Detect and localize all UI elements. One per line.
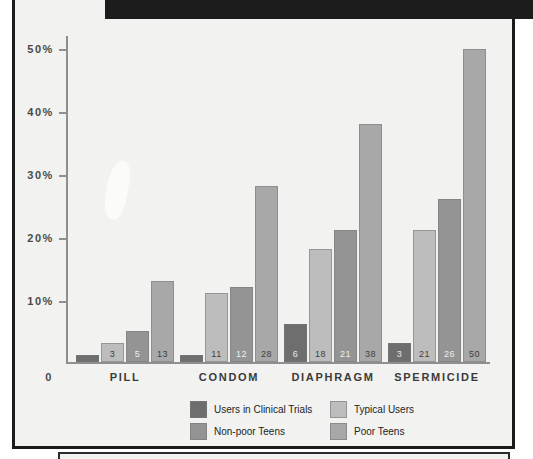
bar: 5 xyxy=(126,331,149,362)
bar-value-label: 21 xyxy=(335,349,356,359)
y-axis-label: 40% xyxy=(27,106,54,118)
masthead-band xyxy=(105,0,533,19)
y-axis-label: 20% xyxy=(27,232,54,244)
bar-value-label: 18 xyxy=(310,349,331,359)
scanned-page: 50%40%30%20%10%0 3513PILL111228CONDOM618… xyxy=(0,0,533,459)
category-label: PILL xyxy=(76,371,174,383)
legend-swatch xyxy=(190,401,207,418)
y-tick-mark xyxy=(59,49,67,51)
y-tick-mark xyxy=(59,112,67,114)
plot-area: 50%40%30%20%10%0 3513PILL111228CONDOM618… xyxy=(66,36,490,364)
bar-value-label: 28 xyxy=(256,349,277,359)
legend-label: Typical Users xyxy=(354,404,414,415)
bar-value-label: 50 xyxy=(464,349,485,359)
bar: 26 xyxy=(438,199,461,362)
bar-value-label: 3 xyxy=(389,349,410,359)
legend-swatch xyxy=(330,423,347,440)
legend-item: Typical Users xyxy=(330,401,490,418)
bar: 18 xyxy=(309,249,332,362)
y-tick-mark xyxy=(59,175,67,177)
bar-value-label: 13 xyxy=(152,349,173,359)
y-axis-label: 10% xyxy=(27,295,54,307)
bar-value-label: 6 xyxy=(285,349,306,359)
bar-value-label: 26 xyxy=(439,349,460,359)
bar-groups: 3513PILL111228CONDOM6182138DIAPHRAGM3212… xyxy=(68,36,490,362)
bar-value-label: 12 xyxy=(231,349,252,359)
legend-item: Poor Teens xyxy=(330,423,490,440)
bar: 28 xyxy=(255,186,278,362)
bar: 13 xyxy=(151,281,174,363)
legend-item: Users in Clinical Trials xyxy=(190,401,330,418)
legend-swatch xyxy=(190,423,207,440)
legend-label: Poor Teens xyxy=(354,426,404,437)
bar-value-label: 3 xyxy=(102,349,123,359)
legend-label: Non-poor Teens xyxy=(214,426,285,437)
bar xyxy=(76,355,99,362)
bar-value-label: 38 xyxy=(360,349,381,359)
y-tick-mark xyxy=(59,301,67,303)
y-axis-label: 50% xyxy=(27,43,54,55)
next-content-box xyxy=(58,452,510,459)
bar-group: 3513PILL xyxy=(76,36,174,362)
legend-item: Non-poor Teens xyxy=(190,423,330,440)
bar: 21 xyxy=(334,230,357,362)
bar: 21 xyxy=(413,230,436,362)
bar-group: 111228CONDOM xyxy=(180,36,278,362)
bar-group: 3212650SPERMICIDE xyxy=(388,36,486,362)
bar-chart: 50%40%30%20%10%0 3513PILL111228CONDOM618… xyxy=(18,26,498,386)
legend-label: Users in Clinical Trials xyxy=(214,404,312,415)
bar-value-label: 11 xyxy=(206,349,227,359)
bar-value-label: 5 xyxy=(127,349,148,359)
category-label: CONDOM xyxy=(180,371,278,383)
bar: 12 xyxy=(230,287,253,362)
bar-group: 6182138DIAPHRAGM xyxy=(284,36,382,362)
y-axis-label: 30% xyxy=(27,169,54,181)
bar: 38 xyxy=(359,124,382,362)
bar: 3 xyxy=(101,343,124,362)
bar: 50 xyxy=(463,49,486,362)
bar-value-label: 21 xyxy=(414,349,435,359)
category-label: DIAPHRAGM xyxy=(284,371,382,383)
x-axis-line xyxy=(66,362,490,364)
bar: 6 xyxy=(284,324,307,362)
y-axis-label: 0 xyxy=(45,371,53,383)
chart-legend: Users in Clinical TrialsTypical UsersNon… xyxy=(190,398,490,442)
bar xyxy=(180,355,203,362)
y-tick-mark xyxy=(59,238,67,240)
category-label: SPERMICIDE xyxy=(388,371,486,383)
bar: 3 xyxy=(388,343,411,362)
bar: 11 xyxy=(205,293,228,362)
legend-swatch xyxy=(330,401,347,418)
